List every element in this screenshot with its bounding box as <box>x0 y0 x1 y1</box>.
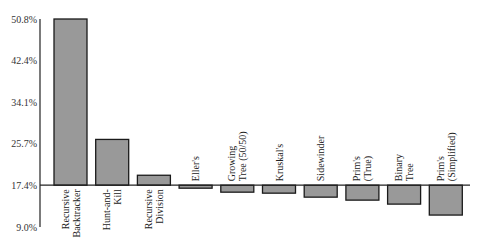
svg-text:Kruskal's: Kruskal's <box>274 144 285 181</box>
y-axis: 50.8%42.4%34.1%25.7%17.4%9.0% <box>11 14 40 233</box>
bar <box>429 185 462 215</box>
category-label: Eller's <box>190 156 201 181</box>
svg-text:Sidewinder: Sidewinder <box>315 135 326 181</box>
y-tick-label: 42.4% <box>11 55 37 66</box>
category-label: BinaryTree <box>393 154 415 181</box>
category-label: Hunt-and-Kill <box>101 189 123 230</box>
category-label: GrowingTree (50/50) <box>226 131 249 181</box>
category-label: RecursiveDivision <box>143 189 165 230</box>
bar <box>304 185 337 197</box>
bar-chart: 50.8%42.4%34.1%25.7%17.4%9.0% RecursiveB… <box>0 0 483 245</box>
bar <box>221 185 254 192</box>
category-label: RecursiveBacktracker <box>60 189 82 238</box>
svg-text:Binary: Binary <box>393 154 404 181</box>
bar <box>137 175 170 185</box>
category-label: Prim's(True) <box>351 156 374 181</box>
bar <box>263 185 296 193</box>
svg-text:Eller's: Eller's <box>190 156 201 181</box>
y-tick-label: 50.8% <box>11 14 37 25</box>
svg-text:Tree: Tree <box>404 163 415 182</box>
svg-text:Prim's: Prim's <box>351 156 362 181</box>
svg-text:Kill: Kill <box>112 189 123 205</box>
category-label: Kruskal's <box>274 144 285 181</box>
svg-text:(True): (True) <box>362 156 374 181</box>
svg-text:Backtracker: Backtracker <box>71 189 82 238</box>
svg-text:Growing: Growing <box>226 146 237 182</box>
bar <box>54 19 87 185</box>
svg-text:(Simplified): (Simplified) <box>446 132 458 181</box>
bar <box>96 139 129 185</box>
y-tick-label: 17.4% <box>11 180 37 191</box>
category-label: Sidewinder <box>315 135 326 181</box>
y-tick-label: 25.7% <box>11 138 37 149</box>
svg-text:Recursive: Recursive <box>60 189 71 230</box>
bar <box>388 185 421 204</box>
svg-text:Hunt-and-: Hunt-and- <box>101 189 112 230</box>
svg-text:Recursive: Recursive <box>143 189 154 230</box>
svg-text:Tree (50/50): Tree (50/50) <box>237 131 249 181</box>
y-tick-label: 9.0% <box>16 222 37 233</box>
y-tick-label: 34.1% <box>11 97 37 108</box>
svg-text:Division: Division <box>154 189 165 223</box>
category-label: Prim's(Simplified) <box>435 132 458 181</box>
bar <box>346 185 379 200</box>
svg-text:Prim's: Prim's <box>435 156 446 181</box>
